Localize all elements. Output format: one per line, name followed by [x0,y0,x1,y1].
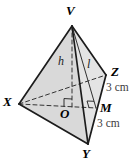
geometry-diagram: VXYZOMhl3 cm3 cm [0,0,139,162]
measure-label-h: h [58,55,64,67]
vertex-label-Z: Z [111,65,119,78]
vertex-label-V: V [66,4,75,17]
measure-label-MY: 3 cm [97,118,120,130]
vertex-label-X: X [3,95,12,108]
vertex-label-Y: Y [82,147,90,160]
measure-label-l: l [87,58,90,70]
measure-label-ZM: 3 cm [106,82,129,94]
vertex-label-O: O [60,107,69,120]
vertex-label-M: M [100,101,112,114]
